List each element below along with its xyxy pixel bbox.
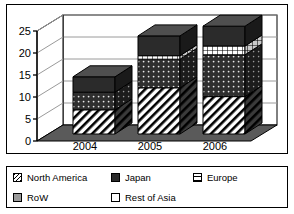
legend-swatch-rest-of-asia-icon: [111, 193, 120, 202]
y-axis-labels: 25 20 15 10 5 0: [19, 25, 31, 147]
legend-label-rest-of-asia: Rest of Asia: [125, 193, 176, 202]
x-axis-labels: 2004 2005 2006: [73, 140, 227, 152]
y-tick-25: 25: [19, 25, 31, 37]
x-tick-2004: 2004: [73, 140, 97, 152]
y-tick-10: 10: [19, 91, 31, 103]
legend-label-row: RoW: [27, 193, 48, 202]
legend-swatch-north-america-icon: [13, 173, 22, 182]
bar-group-2004[interactable]: [73, 66, 132, 134]
legend-swatch-europe-icon: [193, 173, 202, 182]
y-tick-0: 0: [25, 135, 31, 147]
chart-plot-frame: 25 20 15 10 5 0: [6, 4, 288, 154]
legend-row-2: RoW Rest of Asia: [7, 188, 287, 207]
x-tick-2005: 2005: [138, 140, 162, 152]
chart-legend: North America Japan Europe RoW Rest of A…: [6, 166, 288, 208]
x-tick-2006: 2006: [203, 140, 227, 152]
stacked-column-chart: 25 20 15 10 5 0: [7, 5, 287, 153]
legend-swatch-row-icon: [13, 193, 22, 202]
legend-item-rest-of-asia[interactable]: Rest of Asia: [111, 188, 176, 207]
y-tick-5: 5: [25, 113, 31, 125]
axis-depth-wall: [37, 15, 63, 141]
chart-screenshot: 25 20 15 10 5 0: [0, 0, 294, 214]
legend-item-row[interactable]: RoW: [13, 188, 48, 207]
y-tick-20: 20: [19, 47, 31, 59]
y-tick-15: 15: [19, 69, 31, 81]
bar-group-2005[interactable]: [138, 25, 197, 134]
legend-label-north-america: North America: [27, 173, 87, 182]
legend-label-europe: Europe: [207, 173, 238, 182]
legend-label-japan: Japan: [125, 173, 151, 182]
legend-item-north-america[interactable]: North America: [13, 168, 87, 187]
legend-item-japan[interactable]: Japan: [111, 168, 151, 187]
bar-group-2006[interactable]: [203, 15, 262, 134]
legend-swatch-japan-icon: [111, 173, 120, 182]
legend-row-1: North America Japan Europe: [7, 168, 287, 187]
legend-item-europe[interactable]: Europe: [193, 168, 238, 187]
